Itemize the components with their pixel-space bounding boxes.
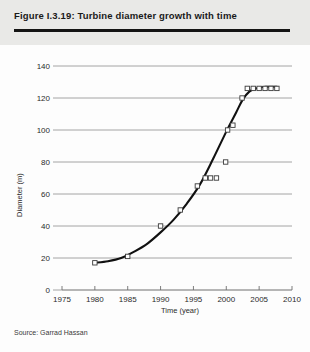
data-point-marker [203,176,207,180]
x-axis-tick-labels: 19751980198519901995200020052010 [53,295,301,304]
data-point-marker [263,86,267,90]
data-point-marker [269,86,273,90]
data-point-marker [178,208,182,212]
x-tick-label-2000: 2000 [217,295,235,304]
gridlines-group [62,66,292,258]
data-point-marker [240,96,244,100]
x-tick-label-1975: 1975 [53,295,71,304]
data-point-marker [223,160,227,164]
data-point-marker [208,176,212,180]
y-tick-label-0: 0 [46,286,51,295]
data-point-marker [195,184,199,188]
figure-header-band: Figure I.3.19: Turbine diameter growth w… [0,0,310,45]
y-tick-label-40: 40 [41,222,50,231]
figure-container: Figure I.3.19: Turbine diameter growth w… [0,0,310,352]
data-point-marker [231,123,235,127]
x-tick-label-2005: 2005 [250,295,268,304]
title-divider-rule [14,29,290,32]
fitted-growth-curve [95,87,277,263]
y-tick-label-100: 100 [37,126,51,135]
x-tick-label-1990: 1990 [152,295,170,304]
x-axis-ticks [62,286,292,290]
data-point-marker [225,128,229,132]
y-axis-tick-labels: 020406080100120140 [37,62,62,295]
y-tick-label-120: 120 [37,94,51,103]
scatter-chart-svg: 020406080100120140 197519801985199019952… [0,45,310,315]
data-point-marker [275,86,279,90]
data-point-marker [245,86,249,90]
data-point-marker [257,86,261,90]
figure-title: Figure I.3.19: Turbine diameter growth w… [14,10,237,21]
data-point-marker [214,176,218,180]
data-point-marker [251,86,255,90]
x-axis-title: Time (year) [161,306,200,315]
x-tick-label-1995: 1995 [185,295,203,304]
x-tick-label-1980: 1980 [86,295,104,304]
data-point-marker [93,261,97,265]
data-point-marker [126,254,130,258]
y-tick-label-60: 60 [41,190,50,199]
x-tick-label-2010: 2010 [283,295,301,304]
figure-source-credit: Source: Garrad Hassan [14,329,88,336]
chart-plot-area: 020406080100120140 197519801985199019952… [0,45,310,315]
data-point-markers [93,86,279,265]
x-tick-label-1985: 1985 [119,295,137,304]
y-tick-label-20: 20 [41,254,50,263]
data-point-marker [158,224,162,228]
y-tick-label-140: 140 [37,62,51,71]
y-tick-label-80: 80 [41,158,50,167]
y-axis-title: Diameter (m) [15,173,24,217]
